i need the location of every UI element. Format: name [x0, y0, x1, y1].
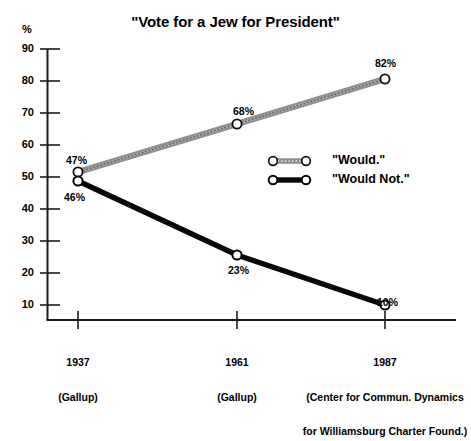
x-tick-source-1987-line1: (Center for Commun. Dynamics	[275, 392, 471, 404]
x-tick-year-1961: 1961	[187, 357, 287, 369]
y-tick-label-50: 50	[8, 171, 34, 182]
y-axis-unit-label: %	[22, 24, 32, 35]
data-point-wouldnot-1961	[232, 250, 241, 259]
point-label-wouldnot-1987: 10%	[377, 297, 398, 308]
x-tick-year-1987: 1987	[275, 357, 471, 369]
y-tick-label-90: 90	[8, 43, 34, 54]
x-tick-source-1987-line2: for Williamsburg Charter Found.)	[275, 426, 471, 438]
y-tick-label-70: 70	[8, 107, 34, 118]
chart-title: "Vote for a Jew for President"	[0, 14, 471, 29]
y-tick-label-10: 10	[8, 299, 34, 310]
point-label-would-1987: 82%	[375, 58, 396, 69]
y-tick-label-40: 40	[8, 203, 34, 214]
data-point-would-1961	[232, 119, 241, 128]
legend-label-would: "Would."	[332, 154, 385, 167]
x-tick-source-1937: (Gallup)	[28, 392, 128, 404]
x-tick-label-1987: 1987 (Center for Commun. Dynamics for Wi…	[275, 334, 471, 441]
legend-key-would-not	[269, 176, 311, 185]
point-label-would-1937: 47%	[66, 155, 87, 166]
legend-key-would	[269, 157, 311, 166]
y-tick-label-30: 30	[8, 235, 34, 246]
data-point-would-1987	[380, 74, 389, 83]
data-point-wouldnot-1937	[73, 176, 82, 185]
y-tick-label-80: 80	[8, 75, 34, 86]
x-tick-label-1937: 1937 (Gallup)	[28, 334, 128, 426]
x-tick-label-1961: 1961 (Gallup)	[187, 334, 287, 426]
data-point-would-1937	[73, 167, 82, 176]
y-tick-label-20: 20	[8, 267, 34, 278]
y-tick-label-60: 60	[8, 139, 34, 150]
point-label-wouldnot-1937: 46%	[64, 192, 85, 203]
x-tick-source-1961: (Gallup)	[187, 392, 287, 404]
series-would-not	[73, 176, 389, 309]
point-label-wouldnot-1961: 23%	[228, 265, 249, 276]
y-axis-ticks	[40, 49, 60, 305]
legend-label-would-not: "Would Not."	[332, 173, 410, 186]
x-tick-year-1937: 1937	[28, 357, 128, 369]
point-label-would-1961: 68%	[233, 106, 254, 117]
